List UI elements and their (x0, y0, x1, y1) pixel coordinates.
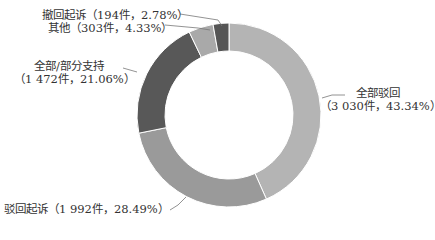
slice-support (137, 32, 201, 133)
leader-line-dismiss (170, 197, 186, 210)
label-support: 全部/部分支持 （1 472件，21.06%） (14, 60, 124, 86)
label-other: 其他（303件，4.33%） (48, 22, 172, 35)
label-all-reject-detail: （3 030件，43.34%） (320, 100, 435, 113)
slice-dismiss (139, 128, 267, 207)
slice-all-reject (229, 23, 321, 199)
label-all-reject: 全部驳回 （3 030件，43.34%） (320, 87, 435, 113)
label-support-detail: （1 472件，21.06%） (14, 73, 124, 86)
label-dismiss: 驳回起诉（1 992件，28.49%） (4, 203, 169, 216)
